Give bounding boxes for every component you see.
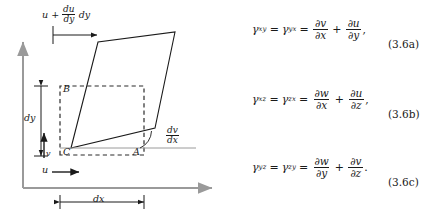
dy-dimension bbox=[34, 86, 48, 156]
eq-c-term1: ∂w ∂y bbox=[312, 156, 330, 178]
eq-a-plus: + bbox=[332, 23, 341, 36]
dy-dimension-label: dy bbox=[24, 112, 35, 123]
eq-a-t1-den-var: x bbox=[320, 29, 326, 41]
eq-b-equals2: = bbox=[299, 93, 308, 106]
eq-c-t2-num-var: v bbox=[355, 155, 361, 167]
eq-c-t1-num-var: w bbox=[320, 155, 329, 167]
dashed-square-path bbox=[60, 86, 144, 155]
equation-3-6b: γxz = γzx = ∂w ∂x + ∂u ∂z , bbox=[252, 88, 369, 110]
top-expr-frac-num: du bbox=[62, 5, 76, 14]
eq-a-sub2: yx bbox=[288, 25, 296, 33]
eq-a-sub1: xy bbox=[259, 25, 267, 33]
eq-b-equals1: = bbox=[269, 93, 278, 106]
dvdx-num: dv bbox=[166, 126, 179, 135]
top-expr-lead: u bbox=[42, 9, 48, 20]
eq-c-sub2: zy bbox=[288, 163, 296, 171]
eq-b-t2-den-var: z bbox=[356, 99, 362, 111]
top-expression-label: u + du dy dy bbox=[42, 5, 90, 25]
angle-arc-dvdx bbox=[140, 131, 152, 148]
eq-b-t2-num-var: u bbox=[355, 87, 362, 99]
axes-group bbox=[23, 42, 212, 188]
dvdx-label: dv dx bbox=[166, 126, 179, 146]
eq-b-t1-den-var: x bbox=[321, 99, 327, 111]
eq-c-gamma1: γ bbox=[252, 161, 259, 174]
equation-number-3-6c: (3.6c) bbox=[388, 176, 419, 188]
eq-a-punct: , bbox=[363, 23, 367, 36]
eq-c-sub1: yz bbox=[259, 163, 267, 171]
equation-number-3-6b: (3.6b) bbox=[388, 108, 420, 120]
top-expr-plus: + bbox=[51, 9, 59, 20]
top-expr-trail: dy bbox=[79, 9, 90, 20]
eq-a-equals2: = bbox=[300, 23, 309, 36]
eq-c-plus: + bbox=[335, 161, 344, 174]
eq-c-equals2: = bbox=[299, 161, 308, 174]
eq-a-t2-num-var: u bbox=[353, 17, 360, 29]
eq-b-t1-num-var: w bbox=[320, 87, 329, 99]
vertex-label-b: B bbox=[63, 83, 70, 94]
equation-number-3-6a: (3.6a) bbox=[388, 38, 419, 50]
parallelogram-path bbox=[71, 32, 175, 148]
eq-c-t1-den-var: y bbox=[321, 167, 327, 179]
eq-c-equals1: = bbox=[269, 161, 278, 174]
top-expr-frac-den: dy bbox=[62, 14, 75, 24]
eq-a-t2-den-var: y bbox=[353, 29, 359, 41]
eq-c-punct: . bbox=[364, 161, 368, 174]
v-velocity-label: v bbox=[46, 149, 51, 158]
eq-c-term2: ∂v ∂z bbox=[348, 156, 363, 178]
top-expr-fraction: du dy bbox=[62, 5, 76, 25]
eq-b-term2: ∂u ∂z bbox=[348, 88, 364, 110]
dx-dimension-label: dx bbox=[93, 193, 104, 204]
figure-container: u + du dy dy B C A dy dx v u dv dx γxy =… bbox=[0, 0, 440, 216]
eq-a-term2: ∂u ∂y bbox=[345, 18, 361, 40]
u-velocity-label: u bbox=[42, 164, 48, 175]
eq-c-t2-den-var: z bbox=[356, 167, 362, 179]
deformed-element-parallelogram bbox=[71, 32, 175, 148]
eq-b-sub2: zx bbox=[288, 95, 296, 103]
eq-b-punct: , bbox=[365, 93, 369, 106]
undeformed-element-square bbox=[60, 86, 144, 155]
eq-b-plus: + bbox=[335, 93, 344, 106]
dvdx-den: dx bbox=[166, 135, 179, 145]
top-measure-arrow bbox=[53, 26, 97, 44]
eq-a-equals1: = bbox=[270, 23, 279, 36]
equation-3-6a: γxy = γyx = ∂v ∂x + ∂u ∂y , bbox=[252, 18, 366, 40]
eq-b-term1: ∂w ∂x bbox=[312, 88, 330, 110]
diagram-canvas bbox=[0, 0, 440, 216]
vertex-label-c: C bbox=[63, 146, 70, 157]
eq-a-gamma1: γ bbox=[252, 23, 259, 36]
equation-3-6c: γyz = γzy = ∂w ∂y + ∂v ∂z . bbox=[252, 156, 368, 178]
eq-a-t1-num-var: v bbox=[320, 17, 326, 29]
eq-b-sub1: xz bbox=[259, 95, 267, 103]
vertex-label-a: A bbox=[133, 146, 140, 157]
eq-b-gamma1: γ bbox=[252, 93, 259, 106]
eq-a-term1: ∂v ∂x bbox=[313, 18, 328, 40]
